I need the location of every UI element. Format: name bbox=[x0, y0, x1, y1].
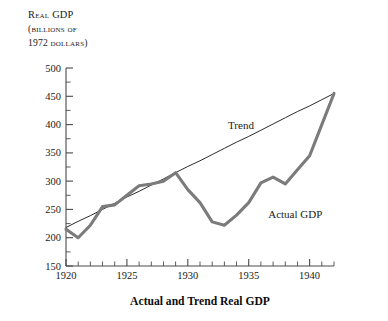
x-tick-label-1935: 1935 bbox=[238, 270, 259, 281]
series-annotation-trend: Trend bbox=[228, 119, 254, 131]
y-axis-title-line-3: 1972 dollars) bbox=[28, 37, 88, 49]
x-axis-ticks bbox=[66, 259, 334, 266]
y-tick-label-500: 500 bbox=[45, 63, 61, 74]
chart-title: Actual and Trend Real GDP bbox=[130, 295, 270, 308]
chart-figure: Real GDP (billions of 1972 dollars) bbox=[0, 0, 388, 321]
y-tick-label-450: 450 bbox=[45, 91, 61, 102]
x-tick-label-1930: 1930 bbox=[177, 270, 198, 281]
y-axis-title-line-1: Real GDP bbox=[28, 9, 74, 20]
y-tick-label-250: 250 bbox=[45, 204, 61, 215]
y-tick-label-350: 350 bbox=[45, 147, 61, 158]
series-annotation-actual-gdp: Actual GDP bbox=[268, 208, 322, 220]
y-axis-title-line-2: (billions of bbox=[28, 23, 77, 35]
y-tick-label-400: 400 bbox=[45, 119, 61, 130]
y-tick-label-200: 200 bbox=[45, 232, 61, 243]
x-tick-label-1920: 1920 bbox=[56, 270, 77, 281]
x-tick-label-1940: 1940 bbox=[299, 270, 320, 281]
y-tick-label-300: 300 bbox=[45, 176, 61, 187]
x-tick-label-1925: 1925 bbox=[116, 270, 137, 281]
real-gdp-line-chart: Real GDP (billions of 1972 dollars) bbox=[0, 0, 388, 321]
